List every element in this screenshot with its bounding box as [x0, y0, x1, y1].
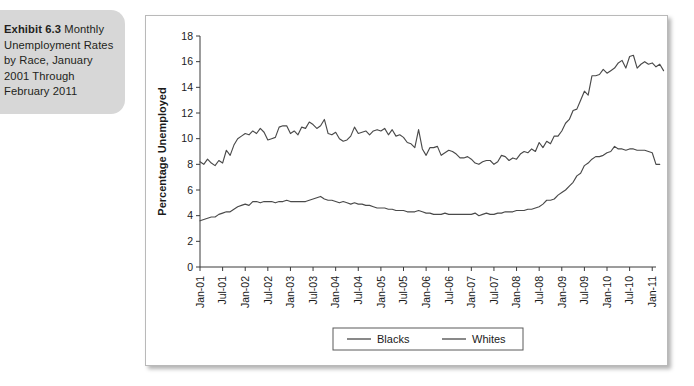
- chart-series: [200, 55, 664, 221]
- x-tick-label: Jan-03: [284, 276, 296, 308]
- x-tick-label: Jul-01: [216, 276, 228, 305]
- y-tick-label: 2: [187, 235, 193, 247]
- x-tick-label: Jan-04: [329, 276, 341, 308]
- y-axis-title: Percentage Unemployed: [156, 87, 168, 215]
- x-tick-label: Jul-03: [307, 276, 319, 305]
- y-tick-label: 12: [181, 107, 193, 119]
- x-tick-label: Jul-04: [352, 276, 364, 305]
- y-tick-label: 14: [181, 81, 193, 93]
- x-tick-label: Jan-05: [375, 276, 387, 308]
- x-tick-label: Jul-09: [578, 276, 590, 305]
- exhibit-number: Exhibit 6.3: [4, 23, 61, 35]
- x-tick-label: Jan-01: [194, 276, 206, 308]
- x-axis: Jan-01Jul-01Jan-02Jul-02Jan-03Jul-03Jan-…: [194, 267, 658, 308]
- y-tick-label: 4: [187, 209, 193, 221]
- x-tick-label: Jan-08: [510, 276, 522, 308]
- unemployment-line-chart: 024681012141618 Jan-01Jul-01Jan-02Jul-02…: [146, 16, 669, 365]
- y-axis: 024681012141618: [181, 30, 200, 273]
- x-tick-label: Jan-02: [239, 276, 251, 308]
- y-tick-label: 10: [181, 132, 193, 144]
- x-tick-label: Jan-10: [601, 276, 613, 308]
- series-line-whites: [200, 146, 660, 220]
- exhibit-caption-box: Exhibit 6.3 Monthly Unemployment Rates b…: [0, 10, 125, 114]
- x-tick-label: Jul-08: [533, 276, 545, 305]
- chart-legend: BlacksWhites: [333, 328, 523, 350]
- y-tick-label: 6: [187, 184, 193, 196]
- y-tick-label: 0: [187, 261, 193, 273]
- x-tick-label: Jan-06: [420, 276, 432, 308]
- legend-label-whites: Whites: [472, 333, 506, 345]
- series-line-blacks: [200, 55, 664, 165]
- x-tick-label: Jul-06: [443, 276, 455, 305]
- x-tick-label: Jul-02: [262, 276, 274, 305]
- legend-label-blacks: Blacks: [377, 333, 410, 345]
- y-tick-label: 16: [181, 55, 193, 67]
- x-tick-label: Jan-07: [465, 276, 477, 308]
- x-tick-label: Jul-07: [488, 276, 500, 305]
- figure-frame: 024681012141618 Jan-01Jul-01Jan-02Jul-02…: [145, 15, 668, 366]
- x-tick-label: Jan-09: [556, 276, 568, 308]
- exhibit-caption-text: Exhibit 6.3 Monthly Unemployment Rates b…: [4, 22, 115, 100]
- x-tick-label: Jul-10: [623, 276, 635, 305]
- x-tick-label: Jan-11: [646, 276, 658, 307]
- y-tick-label: 8: [187, 158, 193, 170]
- x-tick-label: Jul-05: [397, 276, 409, 305]
- y-tick-label: 18: [181, 30, 193, 42]
